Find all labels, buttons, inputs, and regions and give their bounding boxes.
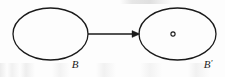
source-set-ellipse (13, 8, 88, 60)
target-set-ellipse (139, 8, 216, 60)
source-set-label: B (72, 58, 79, 70)
source-set-label-text: B (72, 58, 79, 70)
diagram-svg: B B′ (0, 0, 225, 77)
target-set-label: B′ (204, 58, 214, 70)
interior-point-marker-icon (171, 32, 175, 36)
figure-canvas: B B′ (0, 0, 225, 77)
target-set-label-prime: ′ (210, 58, 213, 68)
